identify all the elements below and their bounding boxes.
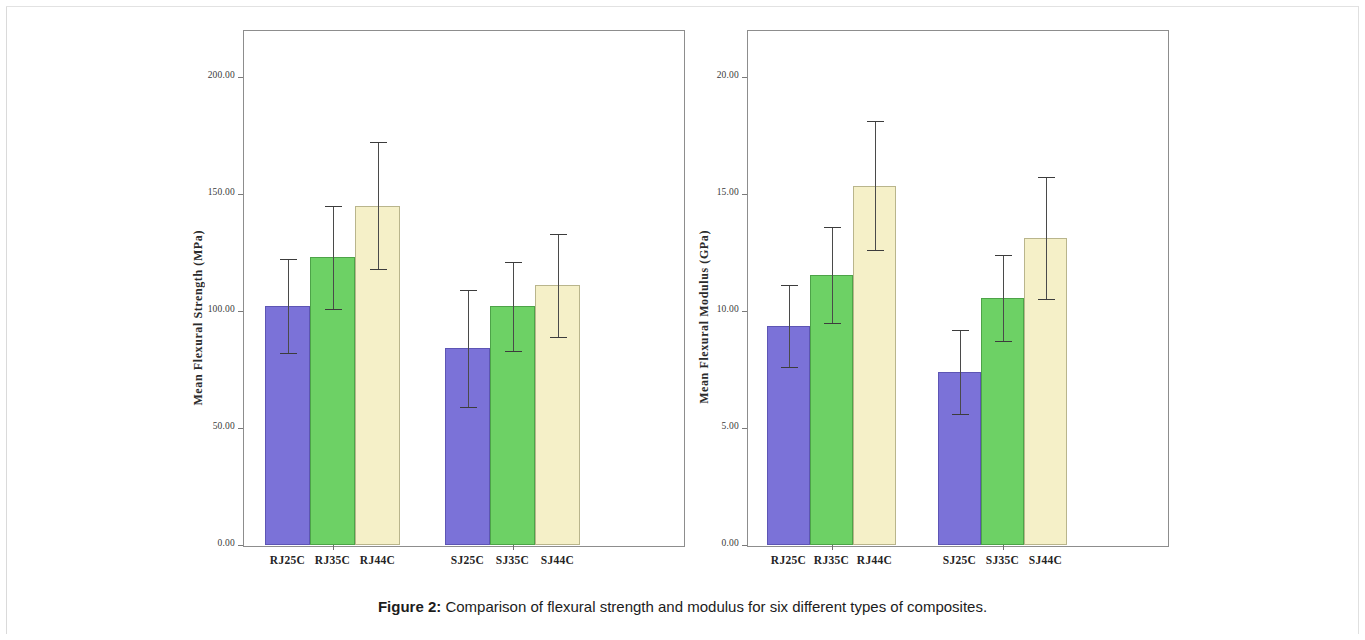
error-bar-rj44c [378, 142, 379, 268]
error-bar-rj44c [875, 121, 876, 250]
error-bar-sj44c [1046, 177, 1047, 299]
y-axis-tick-label: 50.00 [181, 421, 235, 431]
y-axis-tick-mark [238, 545, 243, 546]
x-axis-group-tick [513, 545, 514, 550]
error-bar-cap-lower [280, 353, 297, 354]
error-bar-sj25c [960, 330, 961, 414]
y-axis-tick-mark [742, 545, 747, 546]
y-axis-tick-mark [742, 77, 747, 78]
error-bar-cap-lower [1038, 299, 1055, 300]
figure-caption-label: Figure 2: [378, 598, 441, 615]
error-bar-cap-lower [867, 250, 884, 251]
error-bar-rj35c [333, 206, 334, 309]
error-bar-sj44c [558, 234, 559, 337]
y-axis-tick-mark [742, 194, 747, 195]
error-bar-cap-lower [995, 341, 1012, 342]
y-axis-tick-label: 15.00 [685, 187, 739, 197]
error-bar-cap-upper [325, 206, 342, 207]
y-axis-tick-mark [742, 428, 747, 429]
y-axis-tick-label: 0.00 [181, 538, 235, 548]
chart-flexural-strength: Mean Flexural Strength (MPa) 0.0050.0010… [175, 0, 695, 600]
y-axis-tick-label: 200.00 [181, 70, 235, 80]
chart-flexural-modulus: Mean Flexural Modulus (GPa) 0.005.0010.0… [680, 0, 1190, 600]
x-axis-tick-label-sj44c: SJ44C [1006, 554, 1086, 566]
error-bar-cap-lower [325, 309, 342, 310]
error-bar-cap-lower [370, 269, 387, 270]
error-bar-sj35c [1003, 255, 1004, 342]
y-axis-tick-mark [238, 428, 243, 429]
x-axis-group-tick [333, 545, 334, 550]
y-axis-tick-mark [238, 194, 243, 195]
bars-layer-strength: 0.0050.00100.00150.00200.00RJ25CRJ35CRJ4… [175, 0, 695, 600]
y-axis-tick-label: 150.00 [181, 187, 235, 197]
error-bar-cap-lower [952, 414, 969, 415]
figure-container: Mean Flexural Strength (MPa) 0.0050.0010… [0, 0, 1365, 640]
error-bar-cap-upper [1038, 177, 1055, 178]
y-axis-tick-label: 10.00 [685, 304, 739, 314]
error-bar-rj35c [832, 227, 833, 323]
bars-layer-modulus: 0.005.0010.0015.0020.00RJ25CRJ35CRJ44CSJ… [680, 0, 1190, 600]
x-axis-tick-label-sj44c: SJ44C [518, 554, 598, 566]
error-bar-cap-upper [370, 142, 387, 143]
figure-caption: Figure 2: Comparison of flexural strengt… [0, 598, 1365, 615]
error-bar-cap-upper [995, 255, 1012, 256]
error-bar-cap-lower [824, 323, 841, 324]
error-bar-cap-lower [781, 367, 798, 368]
x-axis-group-tick [1003, 545, 1004, 550]
error-bar-rj25c [288, 259, 289, 353]
y-axis-tick-label: 100.00 [181, 304, 235, 314]
error-bar-cap-upper [867, 121, 884, 122]
x-axis-group-tick [832, 545, 833, 550]
error-bar-cap-upper [952, 330, 969, 331]
error-bar-cap-upper [460, 290, 477, 291]
y-axis-tick-label: 20.00 [685, 70, 739, 80]
error-bar-cap-lower [460, 407, 477, 408]
error-bar-cap-upper [824, 227, 841, 228]
y-axis-tick-mark [238, 311, 243, 312]
figure-caption-text: Comparison of flexural strength and modu… [441, 598, 987, 615]
y-axis-tick-label: 0.00 [685, 538, 739, 548]
error-bar-cap-lower [550, 337, 567, 338]
x-axis-tick-label-rj44c: RJ44C [835, 554, 915, 566]
error-bar-sj25c [468, 290, 469, 407]
y-axis-tick-label: 5.00 [685, 421, 739, 431]
error-bar-cap-upper [505, 262, 522, 263]
x-axis-tick-label-rj44c: RJ44C [338, 554, 418, 566]
error-bar-rj25c [789, 285, 790, 367]
error-bar-cap-lower [505, 351, 522, 352]
error-bar-cap-upper [280, 259, 297, 260]
y-axis-tick-mark [238, 77, 243, 78]
error-bar-sj35c [513, 262, 514, 351]
error-bar-cap-upper [781, 285, 798, 286]
y-axis-tick-mark [742, 311, 747, 312]
error-bar-cap-upper [550, 234, 567, 235]
